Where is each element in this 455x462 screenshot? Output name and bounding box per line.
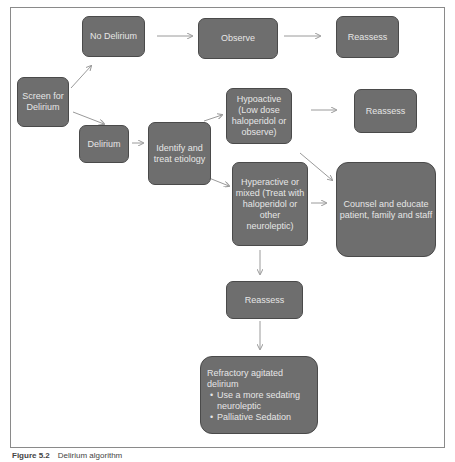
node-counsel-educate: Counsel and educate patient, family and … bbox=[336, 162, 436, 257]
node-screen-for-delirium: Screen for Delirium bbox=[17, 77, 69, 127]
node-hyperactive-mixed: Hyperactive or mixed (Treat with haloper… bbox=[232, 162, 308, 246]
refractory-bullet: Use a more sedating neuroleptic bbox=[217, 390, 315, 412]
caption-text: Delirium algorithm bbox=[58, 451, 122, 460]
refractory-bullet: Palliative Sedation bbox=[217, 412, 315, 423]
node-reassess-hyper: Reassess bbox=[226, 281, 303, 319]
caption-label: Figure 5.2 bbox=[12, 451, 50, 460]
refractory-title: Refractory agitated delirium bbox=[207, 368, 315, 390]
node-refractory-agitated-delirium: Refractory agitated delirium Use a more … bbox=[200, 356, 318, 434]
node-identify-treat-etiology: Identify and treat etiology bbox=[148, 122, 211, 185]
node-reassess-hypo: Reassess bbox=[354, 89, 417, 133]
node-observe: Observe bbox=[198, 18, 278, 59]
figure-caption: Figure 5.2Delirium algorithm bbox=[12, 451, 122, 460]
refractory-bullets: Use a more sedating neuroleptic Palliati… bbox=[207, 390, 315, 423]
node-delirium: Delirium bbox=[79, 125, 129, 163]
node-no-delirium: No Delirium bbox=[82, 16, 145, 57]
node-reassess-top: Reassess bbox=[336, 16, 399, 58]
node-hypoactive: Hypoactive (Low dose haloperidol or obse… bbox=[226, 88, 292, 144]
